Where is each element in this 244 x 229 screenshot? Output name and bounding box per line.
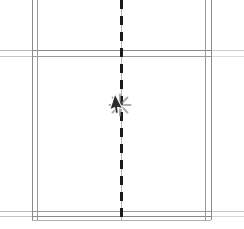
plan-viewport[interactable] <box>0 0 244 229</box>
floor-plan-drawing[interactable] <box>0 0 244 229</box>
